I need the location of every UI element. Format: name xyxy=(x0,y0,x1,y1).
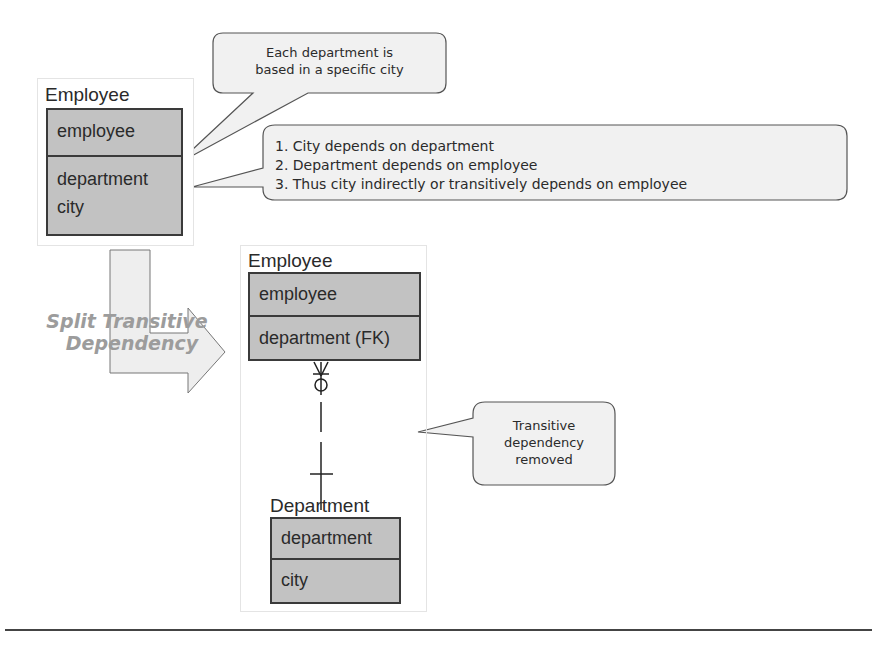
employee-after-attr-section: department (FK) xyxy=(250,317,419,351)
split-transitive-label: Split Transitive Dependency xyxy=(28,310,226,354)
callout-removed-line: removed xyxy=(473,451,615,468)
department-entity[interactable]: department city xyxy=(270,517,401,604)
callout-city-note-line: Each department is xyxy=(213,44,446,61)
attribute-department: department xyxy=(57,165,181,193)
callout-dependency-note: 1. City depends on department 2. Departm… xyxy=(275,137,835,194)
callout-removed-line: dependency xyxy=(473,434,615,451)
callout-dependency-line: 3. Thus city indirectly or transitively … xyxy=(275,175,835,194)
attribute-city: city xyxy=(281,570,308,590)
callout-dependency-line: 2. Department depends on employee xyxy=(275,156,835,175)
employee-before-entity[interactable]: employee department city xyxy=(46,108,183,236)
employee-before-title: Employee xyxy=(45,84,130,106)
employee-after-title: Employee xyxy=(248,250,333,272)
callout-city-note: Each department is based in a specific c… xyxy=(213,44,446,78)
attribute-employee: employee xyxy=(57,121,135,141)
employee-before-attr-section: department city xyxy=(48,157,181,221)
split-label-line: Dependency xyxy=(28,332,226,354)
attribute-city: city xyxy=(57,193,181,221)
attribute-department: department xyxy=(281,528,372,548)
department-key-section: department xyxy=(272,519,399,560)
department-title: Department xyxy=(270,495,369,517)
split-label-line: Split Transitive xyxy=(28,310,226,332)
employee-after-entity[interactable]: employee department (FK) xyxy=(248,272,421,361)
employee-before-key-section: employee xyxy=(48,110,181,157)
department-attr-section: city xyxy=(272,560,399,593)
callout-removed-note: Transitive dependency removed xyxy=(473,417,615,468)
attribute-employee: employee xyxy=(259,284,337,304)
attribute-department-fk: department (FK) xyxy=(259,328,390,348)
callout-city-note-line: based in a specific city xyxy=(213,61,446,78)
employee-after-key-section: employee xyxy=(250,274,419,317)
callout-dependency-line: 1. City depends on department xyxy=(275,137,835,156)
callout-removed-line: Transitive xyxy=(473,417,615,434)
